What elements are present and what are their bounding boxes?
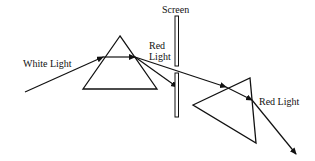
screen-lower bbox=[175, 73, 179, 117]
screen-upper bbox=[175, 16, 179, 66]
second-prism bbox=[193, 78, 256, 143]
internal-ray-prism2 bbox=[226, 87, 252, 100]
first-prism bbox=[83, 36, 157, 89]
red-light-exit-ray bbox=[252, 100, 296, 154]
prism-diagram bbox=[0, 0, 315, 161]
red-light-label-2: Red Light bbox=[259, 96, 299, 107]
white-light-label: White Light bbox=[23, 58, 72, 69]
red-light-label-line1: Red bbox=[149, 40, 165, 51]
screen-label: Screen bbox=[162, 4, 189, 15]
red-light-label-line2: Light bbox=[149, 51, 171, 62]
